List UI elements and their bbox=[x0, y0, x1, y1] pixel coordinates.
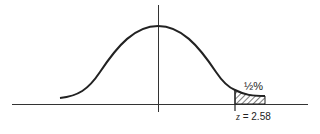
bell-curve bbox=[60, 26, 265, 98]
tail-percentage-label: ½% bbox=[244, 80, 263, 92]
cutoff-label: z = 2.58 bbox=[236, 111, 271, 122]
equals-sign: = bbox=[243, 111, 249, 122]
cutoff-value: 2.58 bbox=[251, 111, 270, 122]
z-variable: z bbox=[236, 111, 240, 122]
